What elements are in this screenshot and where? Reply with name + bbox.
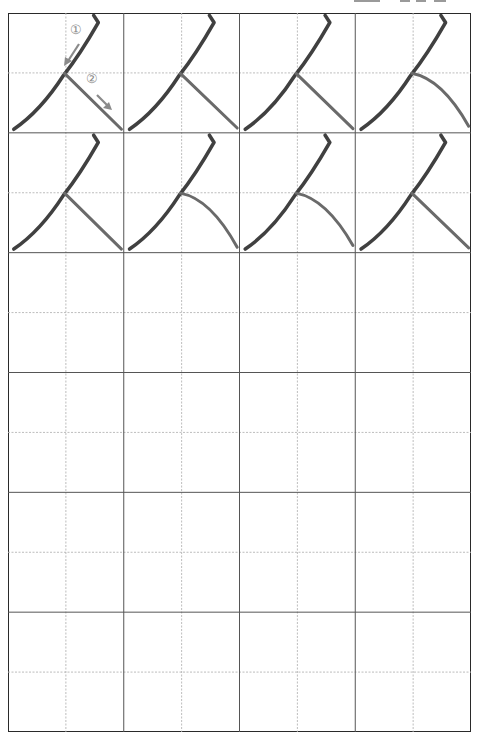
stroke-left-falling xyxy=(245,15,329,129)
stroke-right-falling xyxy=(180,73,237,128)
model-character xyxy=(14,15,122,129)
model-character xyxy=(361,15,469,129)
stroke-left-falling xyxy=(361,15,445,129)
stroke-left-falling xyxy=(130,135,214,249)
cell-lines xyxy=(8,13,471,732)
model-character xyxy=(14,135,122,249)
stroke-left-falling xyxy=(361,135,445,249)
stroke-left-falling xyxy=(130,15,214,129)
model-character xyxy=(245,135,353,249)
stroke-left-falling xyxy=(245,135,329,249)
stroke-right-falling xyxy=(180,193,237,247)
model-character xyxy=(361,135,469,249)
stroke-order-1-label: ① xyxy=(70,22,82,37)
model-characters xyxy=(14,15,469,249)
grid-svg: ① ② xyxy=(0,0,481,744)
stroke-right-falling xyxy=(412,193,469,248)
stroke-left-falling xyxy=(14,135,98,249)
model-character xyxy=(130,15,238,129)
stroke-right-falling xyxy=(296,73,353,128)
stroke-right-falling xyxy=(412,73,469,126)
stroke-right-falling xyxy=(65,193,122,249)
stroke-order-2-label: ② xyxy=(86,71,98,86)
model-character xyxy=(245,15,353,129)
model-character xyxy=(130,135,238,249)
stroke-right-falling xyxy=(296,193,353,245)
